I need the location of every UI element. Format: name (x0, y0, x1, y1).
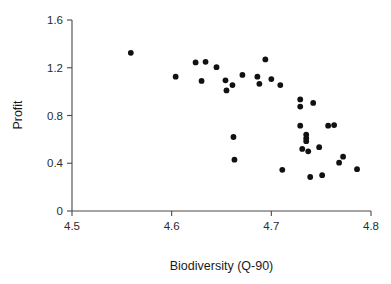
data-point (240, 72, 246, 78)
data-point (325, 123, 331, 129)
data-point (128, 50, 134, 56)
data-point (340, 154, 346, 160)
data-point (224, 88, 230, 94)
data-point (307, 174, 313, 180)
x-axis-title: Biodiversity (Q-90) (170, 259, 274, 273)
data-point (331, 122, 337, 128)
data-point (297, 104, 303, 110)
chart-axes (72, 20, 371, 211)
y-tick-label: 1.6 (47, 14, 63, 26)
x-tick-label: 4.6 (164, 220, 180, 232)
y-axis-title: Profit (11, 100, 25, 130)
data-point (299, 146, 305, 152)
data-point (297, 123, 303, 129)
y-tick-label: 0.8 (47, 110, 63, 122)
x-axis-ticks: 4.54.64.74.8 (64, 211, 379, 232)
data-point (193, 59, 199, 65)
data-point (336, 160, 342, 166)
data-point (223, 77, 229, 83)
data-point (305, 148, 311, 154)
scatter-chart: 00.40.81.21.6 4.54.64.74.8 Biodiversity … (0, 0, 391, 284)
data-point (214, 64, 220, 70)
data-point (199, 78, 205, 84)
data-point (297, 96, 303, 102)
data-point (354, 166, 360, 172)
y-axis-ticks: 00.40.81.21.6 (47, 14, 72, 217)
x-tick-label: 4.8 (363, 220, 379, 232)
x-tick-label: 4.5 (64, 220, 80, 232)
data-point (173, 74, 179, 80)
data-point (316, 144, 322, 150)
data-point (203, 59, 209, 65)
data-point (310, 100, 316, 106)
data-point (232, 157, 238, 163)
data-point (268, 76, 274, 82)
data-point (230, 82, 236, 88)
y-tick-label: 0 (57, 205, 63, 217)
data-point (279, 167, 285, 173)
data-point (254, 74, 260, 80)
x-tick-label: 4.7 (263, 220, 279, 232)
data-point (277, 82, 283, 88)
data-point (303, 138, 309, 144)
data-points (128, 50, 360, 180)
data-point (262, 56, 268, 62)
data-point (319, 172, 325, 178)
y-tick-label: 1.2 (47, 62, 63, 74)
data-point (256, 81, 262, 87)
data-point (231, 134, 237, 140)
y-tick-label: 0.4 (47, 157, 64, 169)
